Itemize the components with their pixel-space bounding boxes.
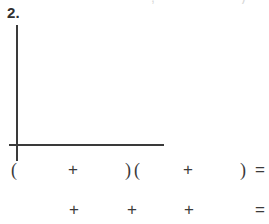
answer-blank-2c[interactable] <box>140 200 182 220</box>
paren-open-1: ( <box>11 158 17 182</box>
answer-blank-1c[interactable] <box>145 160 181 180</box>
y-axis-line <box>16 25 18 161</box>
equals-sign-2: = <box>255 198 265 222</box>
answer-blank-2d[interactable] <box>197 200 252 220</box>
worksheet-page: , ) 2. ( + ) ( + ) = + + + = <box>0 0 269 224</box>
plus-sign-2: + <box>183 158 193 182</box>
answer-blank-1a[interactable] <box>22 160 66 180</box>
equals-sign-1: = <box>255 158 265 182</box>
expression-row-2: + + + = <box>0 198 269 222</box>
plus-sign-3: + <box>69 198 79 222</box>
answer-blank-1b[interactable] <box>80 160 124 180</box>
x-axis-line <box>9 144 164 146</box>
answer-blank-2a[interactable] <box>22 200 66 220</box>
plus-sign-5: + <box>184 198 194 222</box>
expression-row-1: ( + ) ( + ) = <box>0 158 269 182</box>
paren-close-2: ) <box>240 158 246 182</box>
plus-sign-1: + <box>68 158 78 182</box>
clipped-glyph-paren: ) <box>241 0 246 4</box>
answer-blank-1d[interactable] <box>195 160 239 180</box>
empty-coordinate-axes <box>0 18 180 158</box>
clipped-previous-line: , ) <box>0 0 269 4</box>
answer-blank-2b[interactable] <box>82 200 124 220</box>
paren-open-2: ( <box>134 158 140 182</box>
paren-close-1: ) <box>125 158 131 182</box>
plus-sign-4: + <box>127 198 137 222</box>
clipped-glyph-comma: , <box>151 0 155 4</box>
